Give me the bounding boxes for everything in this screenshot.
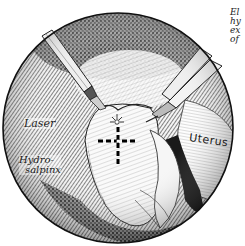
label-hydrosalpinx: Hydro- salpinx [19, 155, 61, 175]
label-hydrosalpinx-line2: salpinx [19, 165, 61, 175]
label-laser: Laser [24, 118, 55, 129]
caption-fragment: El hy ex of [230, 8, 241, 44]
caption-line-4: of [230, 35, 241, 44]
illustration: Laser Hydro- salpinx Uterus El hy ex of [0, 0, 245, 246]
